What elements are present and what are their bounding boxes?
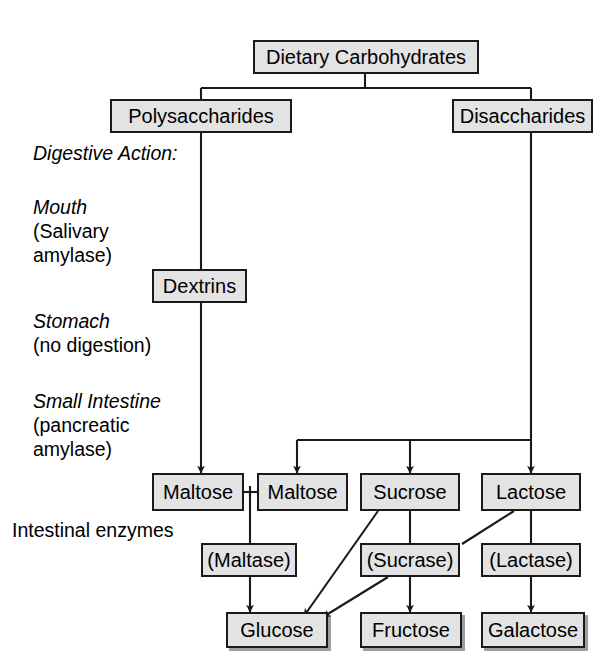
stage-label-mouth-detail-2: amylase)	[33, 244, 112, 267]
node-lactose[interactable]: Lactose	[481, 473, 581, 511]
stage-label-small-intestine: Small Intestine	[33, 390, 161, 413]
edge-lactose-to-sucrase	[462, 511, 514, 544]
stage-label-small-intestine-detail-1: (pancreatic	[33, 414, 129, 437]
stage-label-mouth-detail-1: (Salivary	[33, 220, 109, 243]
node-lactase[interactable]: (Lactase)	[481, 543, 581, 577]
stage-label-stomach-detail: (no digestion)	[33, 334, 151, 357]
node-fructose[interactable]: Fructose	[360, 612, 462, 648]
carbohydrate-digestion-diagram: Dietary Carbohydrates Polysaccharides Di…	[0, 0, 615, 671]
node-galactose[interactable]: Galactose	[481, 612, 585, 648]
node-sucrose[interactable]: Sucrose	[360, 473, 460, 511]
stage-label-small-intestine-detail-2: amylase)	[33, 438, 112, 461]
node-disaccharides[interactable]: Disaccharides	[452, 99, 593, 133]
stage-label-stomach: Stomach	[33, 310, 110, 333]
node-dextrins[interactable]: Dextrins	[152, 269, 247, 303]
node-polysaccharides[interactable]: Polysaccharides	[110, 99, 292, 133]
stage-label-intestinal-enzymes: Intestinal enzymes	[12, 519, 174, 542]
node-maltose-left[interactable]: Maltose	[152, 473, 244, 511]
node-sucrase[interactable]: (Sucrase)	[360, 543, 460, 577]
node-dietary-carbohydrates[interactable]: Dietary Carbohydrates	[253, 40, 479, 74]
node-glucose[interactable]: Glucose	[226, 612, 328, 648]
stage-label-digestive-action: Digestive Action:	[33, 142, 178, 165]
node-maltase[interactable]: (Maltase)	[201, 543, 297, 577]
stage-label-mouth: Mouth	[33, 196, 87, 219]
node-maltose-right[interactable]: Maltose	[257, 473, 348, 511]
edge-sucrase-to-glucose	[323, 577, 388, 617]
